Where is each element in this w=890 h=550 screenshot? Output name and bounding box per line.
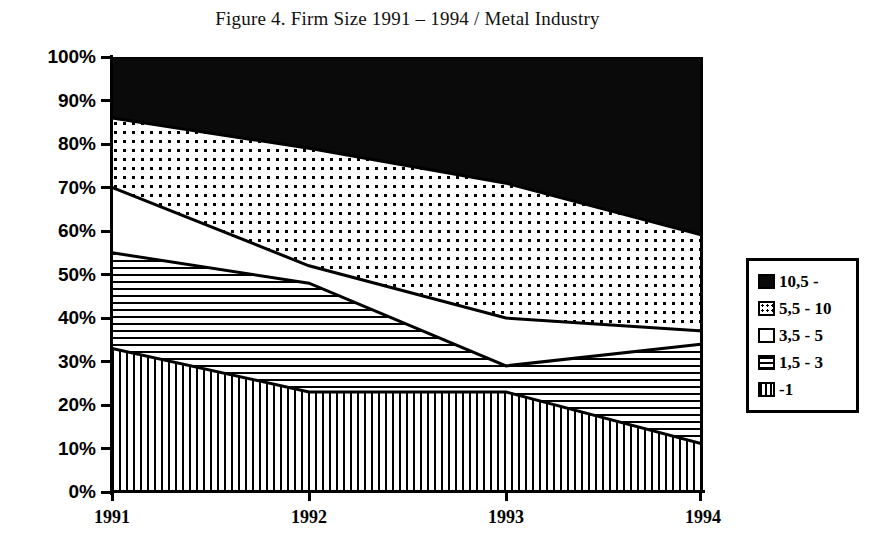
- y-tick-10%: [101, 447, 112, 450]
- legend-label-0: 10,5 -: [779, 273, 819, 290]
- y-tick-60%: [101, 230, 112, 233]
- legend-swatch-icon-solid-black: [758, 274, 775, 289]
- y-tick-100%: [101, 56, 112, 59]
- y-tick-label-10%: 10%: [22, 439, 96, 458]
- y-tick-label-80%: 80%: [22, 134, 96, 153]
- legend-label-3: 1,5 - 3: [779, 354, 823, 371]
- y-tick-label-0%: 0%: [22, 482, 96, 501]
- x-axis-line: [110, 490, 705, 493]
- x-tick-1992: [308, 490, 311, 501]
- chart-title: Figure 4. Firm Size 1991 – 1994 / Metal …: [112, 8, 703, 30]
- y-tick-80%: [101, 143, 112, 146]
- y-tick-label-40%: 40%: [22, 308, 96, 327]
- legend-item-0[interactable]: 10,5 -: [758, 269, 849, 294]
- x-tick-1993: [505, 490, 508, 501]
- legend-swatch-icon-horizontal-lines: [758, 355, 775, 370]
- y-tick-label-70%: 70%: [22, 178, 96, 197]
- legend-item-3[interactable]: 1,5 - 3: [758, 350, 849, 375]
- y-tick-label-90%: 90%: [22, 91, 96, 110]
- x-tick-label-1994: 1994: [658, 508, 748, 526]
- legend-swatch-icon-solid-white: [758, 328, 775, 343]
- legend-item-1[interactable]: 5,5 - 10: [758, 296, 849, 321]
- stacked-area-svg: [112, 57, 703, 492]
- legend-swatch-icon-vertical-lines: [758, 382, 775, 397]
- x-tick-label-1992: 1992: [264, 508, 354, 526]
- y-tick-label-100%: 100%: [22, 47, 96, 66]
- y-tick-70%: [101, 186, 112, 189]
- legend-item-2[interactable]: 3,5 - 5: [758, 323, 849, 348]
- plot-area: [112, 57, 703, 492]
- x-tick-label-1993: 1993: [461, 508, 551, 526]
- y-tick-label-50%: 50%: [22, 265, 96, 284]
- legend-box: 10,5 -5,5 - 103,5 - 51,5 - 3-1: [746, 258, 859, 413]
- x-tick-1994: [699, 490, 702, 501]
- y-tick-label-20%: 20%: [22, 395, 96, 414]
- series-layer: [112, 57, 703, 492]
- legend-label-4: -1: [779, 381, 793, 398]
- legend-label-2: 3,5 - 5: [779, 327, 823, 344]
- y-tick-90%: [101, 99, 112, 102]
- x-tick-1991: [111, 490, 114, 501]
- x-tick-label-1991: 1991: [67, 508, 157, 526]
- y-tick-30%: [101, 360, 112, 363]
- legend-label-1: 5,5 - 10: [779, 300, 831, 317]
- y-tick-50%: [101, 273, 112, 276]
- y-tick-label-30%: 30%: [22, 352, 96, 371]
- legend-swatch-icon-dotted: [758, 301, 775, 316]
- y-tick-40%: [101, 317, 112, 320]
- y-tick-20%: [101, 404, 112, 407]
- figure-container: Figure 4. Firm Size 1991 – 1994 / Metal …: [0, 0, 890, 550]
- legend-item-4[interactable]: -1: [758, 377, 849, 402]
- y-tick-label-60%: 60%: [22, 221, 96, 240]
